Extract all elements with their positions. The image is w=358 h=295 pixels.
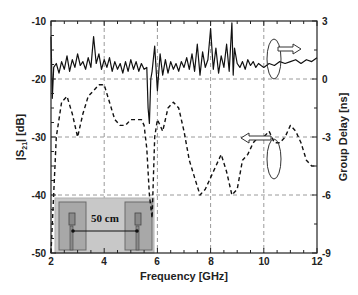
chart-canvas: 50 cm 2 4 6 8 10 12 -10 -20 -30 -40 -50 … — [0, 0, 358, 295]
y-right-tick-3: 3 — [322, 16, 328, 27]
distance-label: 50 cm — [91, 212, 119, 224]
s21-ellipse — [267, 139, 281, 179]
y-right-axis-title: Group Delay [ns] — [337, 92, 349, 181]
svg-text:|S21| [dB]: |S21| [dB] — [14, 113, 28, 160]
x-tick-2: 2 — [48, 256, 54, 267]
y-right-tick--3: -3 — [322, 132, 331, 143]
y-left-tick--40: -40 — [32, 190, 47, 201]
x-tick-10: 10 — [258, 256, 270, 267]
arrow-right-icon — [278, 44, 301, 54]
x-tick-6: 6 — [154, 256, 160, 267]
group-delay-ellipse — [267, 39, 281, 79]
y-right-tick--6: -6 — [322, 190, 331, 201]
x-axis-tick-labels: 2 4 6 8 10 12 — [48, 256, 323, 267]
y-right-tick-labels: 3 0 -3 -6 -9 — [322, 16, 331, 259]
x-tick-4: 4 — [101, 256, 107, 267]
x-tick-8: 8 — [208, 256, 214, 267]
x-axis-title: Frequency [GHz] — [140, 270, 228, 282]
y-right-tick--9: -9 — [322, 248, 331, 259]
antenna-right-element — [135, 213, 141, 225]
y-left-axis-title: |S21| [dB] — [14, 113, 28, 160]
y-left-tick--30: -30 — [32, 132, 47, 143]
y-right-tick-0: 0 — [322, 74, 328, 85]
y-left-tick--10: -10 — [32, 16, 47, 27]
annotations — [241, 39, 301, 179]
y-left-tick--50: -50 — [32, 248, 47, 259]
y-left-tick-labels: -10 -20 -30 -40 -50 — [32, 16, 47, 259]
group-delay-solid-line — [51, 23, 317, 124]
inset-antenna-diagram: 50 cm — [55, 198, 154, 253]
antenna-left-element — [69, 213, 75, 225]
y-left-tick--20: -20 — [32, 74, 47, 85]
